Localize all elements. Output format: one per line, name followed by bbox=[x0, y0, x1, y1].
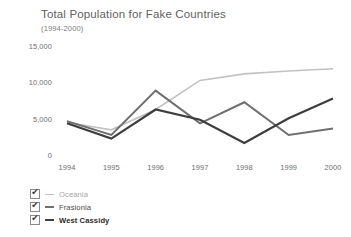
legend-item-label: Frasionia bbox=[59, 203, 91, 212]
x-axis-tick-label: 1994 bbox=[47, 163, 87, 172]
x-axis-tick-label: 1997 bbox=[180, 163, 220, 172]
series-line-frasionia bbox=[67, 91, 333, 135]
y-axis-tick-label: 5,000 bbox=[18, 115, 52, 124]
check-icon: ✔ bbox=[31, 214, 39, 223]
legend-color-swatch bbox=[45, 219, 54, 221]
legend-checkbox-oceania[interactable]: ✔ bbox=[30, 189, 40, 199]
legend-item-west-cassidy[interactable]: ✔West Cassidy bbox=[30, 214, 109, 226]
legend-item-label: West Cassidy bbox=[59, 216, 109, 225]
chart-canvas bbox=[0, 0, 351, 180]
check-icon: ✔ bbox=[31, 188, 39, 197]
legend-item-frasionia[interactable]: ✔Frasionia bbox=[30, 201, 109, 213]
legend-color-swatch bbox=[45, 206, 54, 208]
plot-area: 05,00010,00015,000 199419951996199719981… bbox=[0, 0, 351, 180]
chart-legend: ✔Oceania✔Frasionia✔West Cassidy bbox=[30, 188, 109, 227]
x-axis-tick-label: 1998 bbox=[224, 163, 264, 172]
y-axis-tick-label: 0 bbox=[18, 151, 52, 160]
x-axis-tick-label: 1999 bbox=[269, 163, 309, 172]
y-axis-tick-label: 15,000 bbox=[18, 42, 52, 51]
y-axis-tick-label: 10,000 bbox=[18, 78, 52, 87]
series-line-west-cassidy bbox=[67, 99, 333, 143]
legend-item-oceania[interactable]: ✔Oceania bbox=[30, 188, 109, 200]
check-icon: ✔ bbox=[31, 201, 39, 210]
legend-color-swatch bbox=[45, 194, 54, 195]
x-axis-tick-label: 1995 bbox=[91, 163, 131, 172]
legend-checkbox-frasionia[interactable]: ✔ bbox=[30, 202, 40, 212]
x-axis-tick-label: 1996 bbox=[136, 163, 176, 172]
line-chart-widget: Total Population for Fake Countries (199… bbox=[0, 0, 351, 237]
legend-item-label: Oceania bbox=[59, 190, 88, 199]
x-axis-tick-label: 2000 bbox=[313, 163, 351, 172]
legend-checkbox-west-cassidy[interactable]: ✔ bbox=[30, 215, 40, 225]
